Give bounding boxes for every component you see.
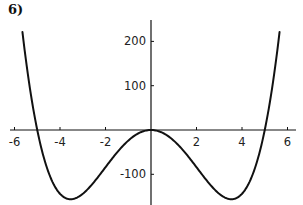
- y-ticks: 200100-100: [120, 34, 154, 181]
- x-tick-label: -2: [100, 135, 111, 149]
- x-tick-label: 2: [193, 135, 200, 149]
- x-tick-label: -4: [54, 135, 65, 149]
- y-tick-label: -100: [120, 167, 146, 181]
- x-tick-label: -6: [9, 135, 20, 149]
- panel-label: 6): [8, 2, 23, 17]
- x-tick-label: 4: [238, 135, 245, 149]
- chart-plot: 6) -6-4-2246 200100-100: [0, 0, 303, 205]
- y-tick-label: 200: [124, 34, 146, 48]
- x-tick-label: 6: [284, 135, 291, 149]
- y-tick-label: 100: [124, 79, 146, 93]
- y-axis: 200100-100: [120, 20, 154, 205]
